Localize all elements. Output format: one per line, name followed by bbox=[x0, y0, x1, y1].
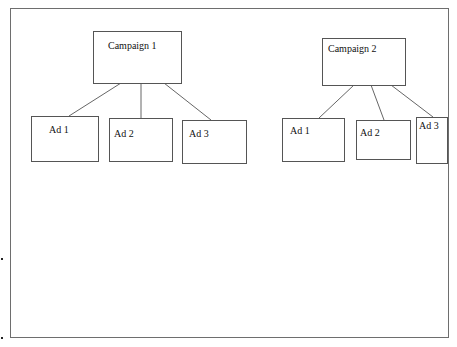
campaign-1-label: Campaign 1 bbox=[108, 40, 157, 52]
campaign-2-node: Campaign 2 bbox=[322, 38, 406, 86]
campaign-1-ad-2-label: Ad 2 bbox=[114, 128, 134, 140]
connector-c1-ad1 bbox=[69, 83, 121, 116]
campaign-1-ad-1-node: Ad 1 bbox=[31, 116, 99, 162]
campaign-2-ad-3-label: Ad 3 bbox=[419, 120, 439, 132]
connector-c2-ad3 bbox=[391, 85, 433, 117]
campaign-2-ad-1-node: Ad 1 bbox=[282, 118, 345, 162]
campaign-1-ad-3-node: Ad 3 bbox=[182, 120, 247, 164]
campaign-2-ad-2-label: Ad 2 bbox=[360, 127, 380, 139]
campaign-2-ad-2-node: Ad 2 bbox=[356, 120, 411, 160]
campaign-1-node: Campaign 1 bbox=[93, 31, 182, 84]
campaign-1-ad-2-node: Ad 2 bbox=[109, 118, 173, 162]
connector-c2-ad2 bbox=[371, 85, 384, 120]
campaign-2-label: Campaign 2 bbox=[328, 43, 377, 55]
campaign-2-ad-1-label: Ad 1 bbox=[290, 125, 310, 137]
margin-dot-2 bbox=[1, 337, 3, 339]
connector-c1-ad3 bbox=[164, 83, 211, 120]
campaign-1-ad-3-label: Ad 3 bbox=[189, 128, 209, 140]
margin-dot-1 bbox=[1, 258, 3, 260]
connector-c2-ad1 bbox=[319, 85, 354, 118]
campaign-1-ad-1-label: Ad 1 bbox=[49, 124, 69, 136]
campaign-2-ad-3-node: Ad 3 bbox=[416, 117, 448, 164]
